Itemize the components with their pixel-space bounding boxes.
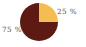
pie-chart: 25 % 75 % (0, 0, 86, 47)
pie-slice-25-percent[interactable] (39, 3, 58, 22)
pie-slice-label-75-percent: 75 % (2, 25, 22, 34)
pie-slice-label-25-percent: 25 % (57, 7, 77, 16)
